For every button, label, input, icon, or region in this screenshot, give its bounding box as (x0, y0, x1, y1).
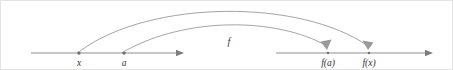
codomain-point-dot-fx (368, 52, 370, 54)
codomain-axis-arrowhead-icon (425, 50, 433, 56)
domain-point-label-a: a (122, 58, 127, 68)
mapping-arc-path-a-to-fa (125, 25, 327, 51)
codomain-point-dot-fa (327, 52, 329, 54)
mapping-arc-arrowhead-icon-fa (321, 40, 332, 51)
domain-axis-arrowhead-icon (176, 50, 184, 56)
domain-point-dot-x (77, 51, 80, 54)
codomain-point-label-fx: f(x) (362, 58, 375, 69)
function-name-label: f (228, 36, 232, 47)
codomain-number-line-group: f(a) f(x) (276, 50, 433, 69)
domain-number-line-group: x a (31, 50, 184, 68)
domain-point-label-x: x (76, 58, 82, 68)
figure-container: x a f(a) f(x) f (0, 0, 453, 70)
codomain-point-label-fa: f(a) (321, 58, 335, 69)
mapping-arc-arrowhead-icon-fx (363, 41, 374, 51)
domain-point-dot-a (122, 51, 125, 54)
function-mapping-diagram: x a f(a) f(x) f (1, 1, 453, 70)
